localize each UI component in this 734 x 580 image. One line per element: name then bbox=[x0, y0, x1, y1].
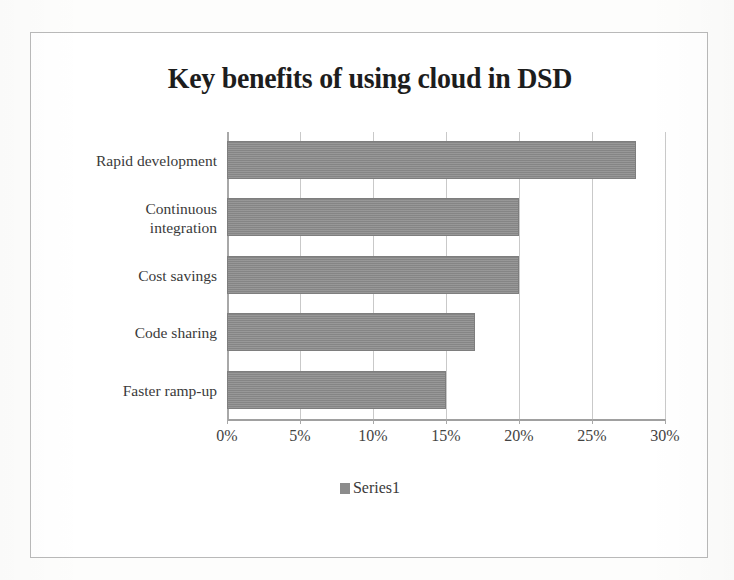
bar-row bbox=[227, 304, 665, 361]
tickmark-25 bbox=[592, 419, 593, 424]
tickmark-5 bbox=[300, 419, 301, 424]
x-tick-label-15: 15% bbox=[431, 427, 460, 445]
x-tick-label-25: 25% bbox=[577, 427, 606, 445]
chart-title: Key benefits of using cloud in DSD bbox=[55, 61, 686, 95]
bar-row bbox=[227, 132, 665, 189]
bar-code-sharing bbox=[227, 313, 475, 351]
scanned-figure-page: Key benefits of using cloud in DSD Rapid… bbox=[0, 0, 734, 580]
x-tick-label-0: 0% bbox=[216, 427, 237, 445]
chart-frame: Key benefits of using cloud in DSD Rapid… bbox=[30, 32, 708, 558]
x-axis-tick-labels: 0%5%10%15%20%25%30% bbox=[227, 427, 665, 453]
category-label-cost-savings: Cost savings bbox=[39, 247, 223, 304]
series1-swatch bbox=[340, 483, 350, 494]
tickmark-30 bbox=[665, 419, 666, 424]
tickmark-0 bbox=[227, 419, 228, 424]
legend-label-series1: Series1 bbox=[353, 479, 400, 497]
x-tick-label-5: 5% bbox=[289, 427, 310, 445]
plot-area bbox=[227, 132, 665, 419]
bar-row bbox=[227, 247, 665, 304]
x-tick-label-30: 30% bbox=[650, 427, 679, 445]
x-tick-label-10: 10% bbox=[358, 427, 387, 445]
x-tick-label-20: 20% bbox=[504, 427, 533, 445]
category-label-continuous-integration: Continuousintegration bbox=[39, 189, 223, 246]
tickmark-15 bbox=[446, 419, 447, 424]
bar-cost-savings bbox=[227, 256, 519, 294]
category-axis-labels: Rapid developmentContinuousintegrationCo… bbox=[39, 132, 223, 419]
tickmark-20 bbox=[519, 419, 520, 424]
category-label-code-sharing: Code sharing bbox=[39, 304, 223, 361]
bar-row bbox=[227, 362, 665, 419]
category-label-rapid-development: Rapid development bbox=[39, 132, 223, 189]
tickmark-10 bbox=[373, 419, 374, 424]
chart-legend: Series1 bbox=[31, 479, 709, 497]
bar-faster-ramp-up bbox=[227, 371, 446, 409]
gridline-30 bbox=[665, 132, 666, 419]
bar-row bbox=[227, 189, 665, 246]
bar-series bbox=[227, 132, 665, 419]
category-label-faster-ramp-up: Faster ramp-up bbox=[39, 362, 223, 419]
bar-rapid-development bbox=[227, 141, 636, 179]
bar-continuous-integration bbox=[227, 198, 519, 236]
